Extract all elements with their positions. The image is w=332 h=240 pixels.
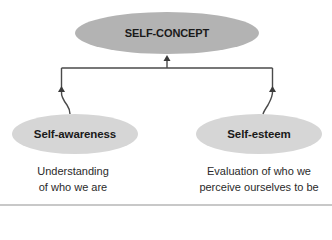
self-esteem-description-line1: Evaluation of who we (199, 163, 318, 179)
self-esteem-description: Evaluation of who we perceive ourselves … (199, 163, 318, 195)
self-awareness-description: Understanding of who we are (37, 163, 109, 195)
self-awareness-description-line2: of who we are (37, 179, 109, 195)
self-esteem-label: Self-esteem (227, 128, 290, 140)
arrow-up-icon (58, 86, 65, 92)
self-concept-label: SELF-CONCEPT (125, 27, 209, 39)
arrow-up-icon (164, 55, 171, 61)
bottom-divider (0, 204, 332, 206)
arrow-up-icon (269, 86, 276, 92)
self-awareness-label: Self-awareness (34, 128, 116, 140)
self-awareness-description-line1: Understanding (37, 163, 109, 179)
connector-lines (61, 59, 272, 114)
self-esteem-description-line2: perceive ourselves to be (199, 179, 318, 195)
